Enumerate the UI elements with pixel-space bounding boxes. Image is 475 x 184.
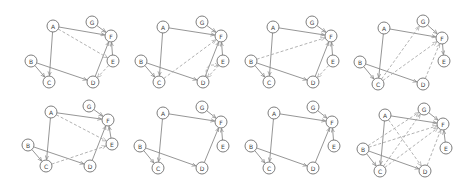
node-f: F	[215, 116, 227, 128]
node-d: D	[419, 165, 431, 177]
edge-b-c	[364, 67, 374, 79]
graph-panel-8: ABCDEFG	[357, 103, 452, 177]
edge-d-f	[92, 126, 105, 160]
node-label: G	[310, 19, 315, 26]
node-b: B	[245, 55, 257, 67]
node-label: B	[26, 142, 30, 149]
edge-a-f	[391, 116, 437, 123]
edge-c-e-dashed	[52, 146, 106, 164]
node-label: E	[221, 58, 225, 65]
node-a: A	[45, 106, 57, 118]
edges	[367, 113, 446, 169]
edge-b-c	[255, 66, 265, 78]
edge-c-f-dashed	[385, 128, 438, 168]
node-c: C	[372, 78, 384, 90]
node-label: B	[139, 58, 143, 65]
edge-d-f	[315, 128, 329, 162]
graph-panel-6: ABCDEFG	[134, 101, 229, 174]
node-g: G	[307, 101, 319, 113]
edge-b-c	[32, 150, 42, 162]
node-b: B	[135, 55, 147, 67]
edges	[145, 26, 223, 80]
edge-a-f	[57, 113, 102, 119]
edge-e-f	[332, 42, 333, 55]
node-b: B	[357, 143, 369, 155]
edge-e-f	[109, 126, 111, 138]
node-f: F	[325, 30, 337, 42]
node-label: F	[330, 119, 334, 126]
node-c: C	[374, 165, 386, 177]
edges	[35, 26, 113, 80]
edge-d-e-dashed	[206, 65, 218, 78]
node-label: C	[44, 163, 48, 170]
edge-a-e-dashed	[58, 29, 107, 58]
edge-c-f-dashed	[164, 40, 216, 79]
node-e: E	[327, 55, 339, 67]
node-label: C	[267, 165, 271, 172]
node-g: G	[306, 16, 318, 28]
edge-b-c	[144, 151, 154, 163]
edge-b-c	[35, 66, 45, 78]
node-label: B	[358, 59, 362, 66]
node-f: F	[436, 32, 448, 44]
node-e: E	[440, 142, 452, 154]
node-label: E	[331, 58, 335, 65]
node-b: B	[245, 140, 257, 152]
node-label: F	[219, 33, 223, 40]
edge-b-c	[145, 66, 155, 78]
node-label: C	[376, 81, 380, 88]
node-a: A	[379, 109, 391, 121]
edge-a-f	[279, 28, 325, 35]
node-g: G	[417, 15, 429, 27]
node-label: F	[219, 119, 223, 126]
node-b: B	[22, 139, 34, 151]
node-label: D	[311, 79, 316, 86]
node-label: G	[422, 106, 427, 113]
edge-g-f	[427, 25, 437, 34]
edge-b-d	[257, 63, 307, 80]
edge-f-e	[443, 44, 444, 55]
node-g: G	[86, 16, 98, 28]
node-label: B	[361, 146, 365, 153]
edge-g-f	[318, 111, 327, 118]
node-label: B	[249, 143, 253, 150]
edge-e-f	[112, 42, 113, 55]
node-c: C	[43, 76, 55, 88]
node-e: E	[328, 140, 340, 152]
graph-panel-2: ABCDEFG	[135, 16, 229, 88]
node-label: G	[311, 104, 316, 111]
node-d: D	[196, 162, 208, 174]
edge-a-f	[169, 28, 215, 35]
edge-b-c	[367, 154, 376, 166]
edge-g-f	[429, 113, 438, 120]
node-label: D	[311, 165, 316, 172]
node-f: F	[215, 30, 227, 42]
node-g: G	[83, 100, 95, 112]
graph-panel-1: ABCDEFG	[25, 16, 119, 88]
edge-g-f	[207, 26, 216, 33]
node-d: D	[307, 76, 319, 88]
node-e: E	[107, 55, 119, 67]
node-b: B	[25, 55, 37, 67]
node-label: D	[423, 168, 428, 175]
edge-b-d	[147, 63, 197, 80]
edge-d-f	[204, 128, 218, 162]
edge-a-c	[49, 32, 52, 76]
node-label: D	[200, 165, 205, 172]
edges	[364, 25, 444, 82]
edge-g-f	[207, 111, 216, 118]
node-e: E	[106, 138, 118, 150]
node-label: E	[444, 145, 448, 152]
node-label: G	[200, 104, 205, 111]
node-label: F	[106, 117, 110, 124]
graph-panel-7: ABCDEFG	[245, 101, 340, 174]
edge-a-c	[379, 34, 384, 78]
edge-d-f-dashed	[425, 44, 439, 78]
node-label: C	[157, 79, 161, 86]
node-g: G	[196, 101, 208, 113]
node-label: E	[332, 143, 336, 150]
edge-b-d	[37, 63, 87, 80]
node-d: D	[307, 162, 319, 174]
edge-a-c	[270, 119, 274, 162]
graph-panels-canvas: ABCDEFGABCDEFGABCDEFGABCDEFGABCDEFGABCDE…	[0, 0, 475, 184]
